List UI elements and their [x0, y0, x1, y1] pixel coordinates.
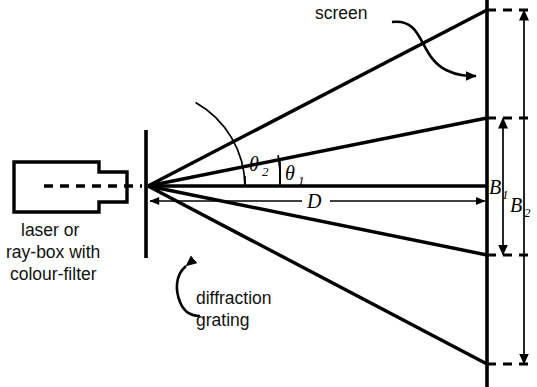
screen-leader-arrow [392, 22, 476, 76]
dimension-D: D [150, 190, 485, 212]
theta-2-subscript: 2 [262, 164, 269, 179]
theta-1-subscript: 1 [298, 173, 305, 188]
theta-2-symbol: θ [249, 153, 259, 175]
diffraction-grating-diagram: θ 2 θ 1 D B 1 B [0, 0, 537, 387]
grating-label-line2: grating [196, 310, 250, 330]
ray-first-order-up [148, 118, 487, 186]
diagram-canvas: θ 2 θ 1 D B 1 B [0, 0, 537, 387]
grating-callout: diffraction grating [177, 266, 272, 330]
dimension-B2-subscript: 2 [524, 205, 531, 220]
source-label-line3: colour-filter [10, 264, 97, 284]
ray-second-order-up [148, 10, 487, 186]
dimension-B2-label: B [510, 194, 522, 216]
dimension-B1: B 1 [489, 118, 509, 255]
screen-label: screen [315, 3, 368, 23]
theta-1-symbol: θ [285, 162, 295, 184]
screen-callout: screen [315, 3, 476, 76]
grating-label-line1: diffraction [196, 288, 272, 308]
dimension-B1-label: B [489, 176, 501, 198]
source-label-line1: laser or [21, 220, 80, 240]
label-theta-2: θ 2 [249, 153, 269, 179]
label-theta-1: θ 1 [285, 162, 305, 188]
source-caption: laser or ray-box with colour-filter [6, 220, 100, 284]
source-label-line2: ray-box with [6, 242, 100, 262]
dimension-D-label: D [306, 190, 322, 212]
dimension-B2: B 2 [510, 10, 531, 364]
dimension-B1-subscript: 1 [502, 187, 509, 202]
ray-second-order-down [148, 186, 487, 364]
